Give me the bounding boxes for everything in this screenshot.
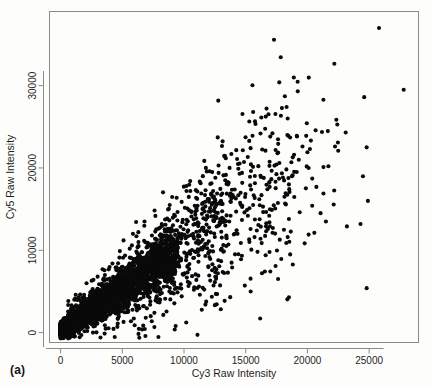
- data-point: [272, 164, 276, 168]
- data-point: [161, 190, 165, 194]
- data-point: [154, 289, 158, 293]
- data-point: [198, 179, 202, 183]
- data-point: [166, 246, 170, 250]
- data-point: [210, 244, 214, 248]
- data-point: [267, 214, 271, 218]
- data-point: [239, 241, 243, 245]
- data-point: [334, 118, 338, 122]
- x-axis-tick-label: 25000: [355, 355, 383, 366]
- data-point: [358, 222, 362, 226]
- data-point: [268, 207, 272, 211]
- data-point: [136, 280, 140, 284]
- data-point: [197, 234, 201, 238]
- data-point: [274, 186, 278, 190]
- data-point: [287, 182, 291, 186]
- data-point: [314, 185, 318, 189]
- data-point: [267, 220, 271, 224]
- data-point: [192, 288, 196, 292]
- data-point: [247, 139, 251, 143]
- data-point: [126, 309, 130, 313]
- data-point: [275, 248, 279, 252]
- data-point: [257, 197, 261, 201]
- data-point: [258, 237, 262, 241]
- data-point: [208, 279, 212, 283]
- data-point: [332, 189, 336, 193]
- data-point: [187, 208, 191, 212]
- data-point: [286, 176, 290, 180]
- data-point: [153, 254, 157, 258]
- data-point: [202, 244, 206, 248]
- data-point: [219, 230, 223, 234]
- data-point: [156, 335, 160, 339]
- data-point: [175, 218, 179, 222]
- data-point: [249, 146, 253, 150]
- data-point: [158, 233, 162, 237]
- data-point: [307, 233, 311, 237]
- data-point: [195, 197, 199, 201]
- data-point: [268, 160, 272, 164]
- data-point: [95, 287, 99, 291]
- x-axis-tick-label: 5000: [111, 355, 134, 366]
- data-point: [171, 223, 175, 227]
- y-axis-tick-label: 10000: [28, 236, 39, 264]
- data-point: [240, 254, 244, 258]
- data-point: [188, 189, 192, 193]
- y-axis-tick-label: 0: [28, 329, 39, 335]
- data-point: [140, 256, 144, 260]
- data-point: [194, 272, 198, 276]
- data-point: [131, 232, 135, 236]
- data-point: [96, 275, 100, 279]
- data-point: [296, 80, 300, 84]
- data-point: [94, 319, 98, 323]
- data-point: [218, 200, 222, 204]
- data-point: [100, 309, 104, 313]
- data-point: [155, 271, 159, 275]
- data-point: [288, 252, 292, 256]
- scatter-plot-figure: 0500010000150002000025000 01000020000300…: [0, 0, 431, 387]
- data-point: [205, 242, 209, 246]
- data-point: [102, 276, 106, 280]
- data-point: [279, 257, 283, 261]
- data-point: [242, 160, 246, 164]
- data-point: [122, 238, 126, 242]
- data-point: [129, 319, 133, 323]
- data-point: [258, 317, 262, 321]
- data-point: [214, 275, 218, 279]
- data-point: [217, 264, 221, 268]
- data-point: [92, 310, 96, 314]
- data-point: [103, 283, 107, 287]
- data-point: [277, 177, 281, 181]
- data-point: [200, 308, 204, 312]
- data-point: [150, 259, 154, 263]
- data-point: [107, 311, 111, 315]
- data-point: [297, 158, 301, 162]
- data-point: [243, 195, 247, 199]
- data-point: [282, 228, 286, 232]
- data-point: [215, 191, 219, 195]
- data-point: [288, 135, 292, 139]
- data-point: [133, 303, 137, 307]
- data-point: [111, 327, 115, 331]
- data-point: [117, 256, 121, 260]
- data-point: [172, 301, 176, 305]
- data-point: [221, 139, 225, 143]
- data-point: [83, 323, 87, 327]
- data-point: [223, 178, 227, 182]
- data-point: [163, 269, 167, 273]
- data-point: [133, 272, 137, 276]
- data-point: [143, 327, 147, 331]
- data-point: [247, 119, 251, 123]
- data-point: [152, 311, 156, 315]
- data-point: [248, 175, 252, 179]
- data-point: [171, 229, 175, 233]
- data-point: [249, 169, 253, 173]
- data-point: [282, 195, 286, 199]
- data-point: [285, 105, 289, 109]
- data-point: [132, 281, 136, 285]
- data-point: [250, 83, 254, 87]
- data-point: [207, 255, 211, 259]
- data-point: [252, 235, 256, 239]
- data-point: [276, 142, 280, 146]
- data-point: [101, 286, 105, 290]
- data-point: [168, 297, 172, 301]
